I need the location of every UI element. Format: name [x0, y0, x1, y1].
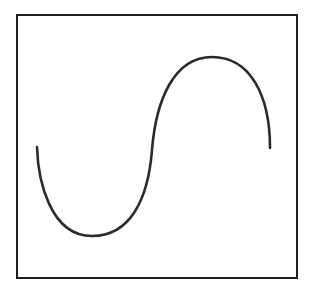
diagram-canvas	[0, 0, 310, 293]
sine-wave-curve-layer	[0, 0, 310, 293]
sine-wave-curve	[37, 57, 270, 236]
